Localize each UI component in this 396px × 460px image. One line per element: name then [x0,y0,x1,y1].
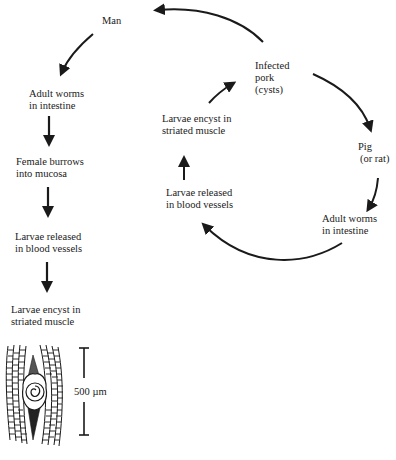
label-pig: Pig (or rat) [358,141,389,165]
arrow-pork-to-man [158,9,263,42]
label-line: Pig [358,141,389,153]
label-line: into mucosa [16,168,84,180]
label-line: Female burrows [16,156,84,168]
label-human-larvae-released: Larvae released in blood vessels [15,231,82,255]
label-line: Man [102,15,121,27]
label-cycle-adult-worms: Adult worms in intestine [322,213,377,237]
label-line: Larvae encyst in [11,304,80,316]
label-line: Infected [255,60,289,72]
muscle-cyst-illustration [6,345,63,446]
label-line: Larvae encyst in [162,113,231,125]
scale-bar-label: 500 µm [74,386,107,398]
label-line: striated muscle [11,316,80,328]
label-line: in blood vessels [166,199,233,211]
arrow-pig-to-worms [369,178,378,208]
label-line: 500 µm [74,386,107,398]
label-infected-pork: Infected pork (cysts) [255,60,289,96]
label-line: in intestine [29,100,84,112]
label-line: Adult worms [29,88,84,100]
life-cycle-diagram: Infected pork (cysts) Pig (or rat) Adult… [0,0,396,460]
label-line: in intestine [322,225,377,237]
label-line: (or rat) [360,153,389,165]
arrow-encyst-to-pork [209,84,232,103]
label-line: in blood vessels [15,243,82,255]
label-line: striated muscle [162,125,231,137]
label-female-burrows: Female burrows into mucosa [16,156,84,180]
label-line: (cysts) [255,84,289,96]
label-line: Larvae released [166,187,233,199]
arrow-man-to-worms [62,34,93,72]
label-line: Adult worms [322,213,377,225]
label-human-adult-worms: Adult worms in intestine [29,88,84,112]
label-line: pork [255,72,289,84]
label-man: Man [102,15,121,27]
label-cycle-larvae-encyst: Larvae encyst in striated muscle [162,113,231,137]
arrow-pork-to-pig [313,74,370,128]
label-line: Larvae released [15,231,82,243]
label-human-larvae-encyst: Larvae encyst in striated muscle [11,304,80,328]
label-cycle-larvae-released: Larvae released in blood vessels [166,187,233,211]
